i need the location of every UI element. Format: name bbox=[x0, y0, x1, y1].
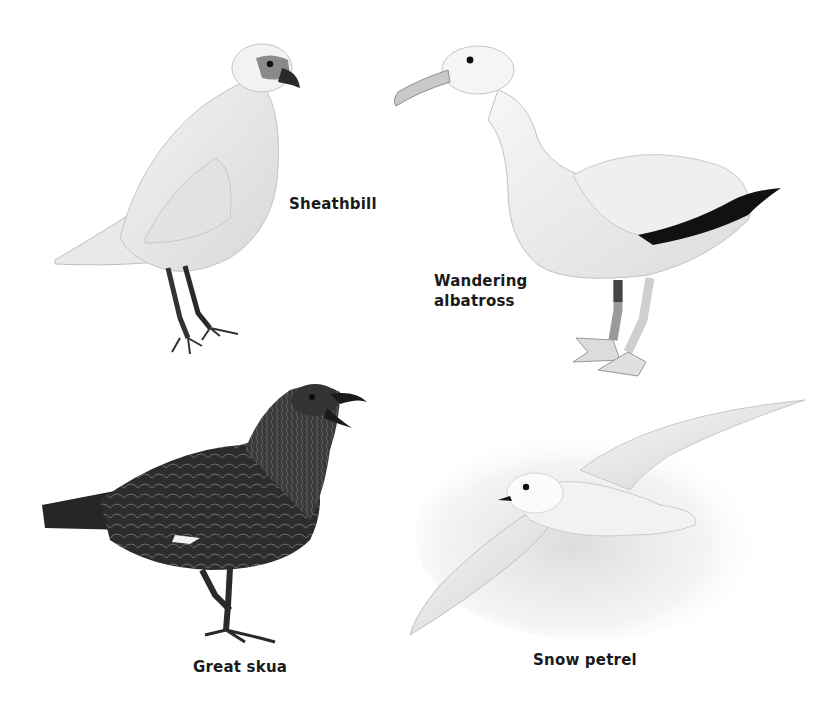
wandering-albatross-label: Wandering albatross bbox=[434, 271, 527, 311]
sheathbill-illustration bbox=[50, 38, 310, 363]
bird-illustration-plate: Sheathbill bbox=[0, 0, 840, 711]
sheathbill-label: Sheathbill bbox=[289, 194, 377, 214]
wandering-albatross-illustration bbox=[388, 40, 788, 380]
snow-petrel-illustration bbox=[400, 395, 810, 640]
great-skua-illustration bbox=[40, 380, 380, 650]
great-skua-label: Great skua bbox=[193, 657, 287, 677]
snow-petrel-label: Snow petrel bbox=[533, 650, 637, 670]
